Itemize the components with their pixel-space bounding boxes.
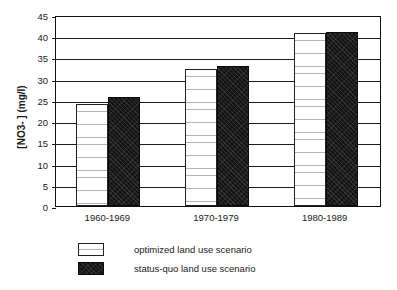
legend-label-status-quo: status-quo land use scenario (134, 263, 255, 274)
y-tick-mark-20 (52, 123, 56, 124)
y-tick-label-20: 20 (8, 118, 48, 128)
y-tick-label-45: 45 (8, 12, 48, 22)
bar-chart-figure: [NO3- ] (mg/l) 051015202530354045 1960-1… (0, 0, 397, 290)
bar-status-quo-1980-1989 (326, 32, 358, 206)
y-tick-label-25: 25 (8, 97, 48, 107)
y-tick-mark-35 (52, 59, 56, 60)
y-tick-label-0: 0 (8, 203, 48, 213)
legend-label-optimized: optimized land use scenario (134, 244, 252, 255)
y-tick-label-40: 40 (8, 33, 48, 43)
y-tick-label-15: 15 (8, 139, 48, 149)
y-tick-label-5: 5 (8, 182, 48, 192)
bar-status-quo-1960-1969 (108, 97, 140, 206)
chart-legend: optimized land use scenario status-quo l… (78, 240, 255, 278)
bar-status-quo-1970-1979 (217, 66, 249, 206)
x-tick-label-1960-1969: 1960-1969 (62, 212, 152, 223)
x-tick-label-1970-1979: 1970-1979 (171, 212, 261, 223)
y-tick-label-35: 35 (8, 54, 48, 64)
y-tick-mark-0 (52, 208, 56, 209)
bar-optimized-1980-1989 (294, 33, 326, 206)
legend-item-optimized: optimized land use scenario (78, 240, 255, 259)
y-tick-label-10: 10 (8, 161, 48, 171)
y-tick-mark-5 (52, 187, 56, 188)
y-tick-mark-15 (52, 144, 56, 145)
legend-swatch-optimized-icon (78, 243, 104, 256)
legend-swatch-status-quo-icon (78, 262, 104, 275)
legend-item-status-quo: status-quo land use scenario (78, 259, 255, 278)
y-tick-mark-45 (52, 17, 56, 18)
bar-optimized-1970-1979 (185, 69, 217, 206)
y-tick-mark-30 (52, 81, 56, 82)
bar-optimized-1960-1969 (76, 104, 108, 206)
y-tick-mark-40 (52, 38, 56, 39)
y-tick-mark-10 (52, 166, 56, 167)
y-tick-label-30: 30 (8, 76, 48, 86)
plot-area: 051015202530354045 (55, 16, 381, 207)
y-tick-mark-25 (52, 102, 56, 103)
x-tick-label-1980-1989: 1980-1989 (280, 212, 370, 223)
